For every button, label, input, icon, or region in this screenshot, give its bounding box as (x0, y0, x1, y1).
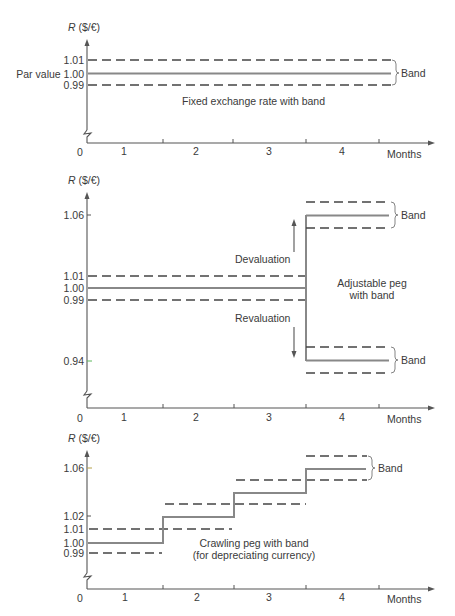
band-label-top: Band (401, 209, 426, 221)
y-label-low: 0.94 (64, 355, 85, 367)
x-tick-label: 2 (193, 411, 199, 423)
x-tick-label: 1 (122, 591, 128, 603)
y-label-upper: 1.01 (64, 523, 85, 535)
x-tick-label: 4 (339, 411, 345, 423)
chart-crawling-peg: R ($/€) 0 1 2 3 4 Months 1.06 1.02 1.01 … (64, 432, 435, 605)
chart-adjustable-peg: R ($/€) 0 1 2 3 4 Months 1.06 1.01 1.00 … (64, 174, 435, 425)
x-tick-label: 2 (193, 145, 199, 157)
exchange-rate-diagram: R ($/€) 0 1 2 3 4 Months 1.01 Par value … (0, 0, 455, 616)
y-axis-label: R ($/€) (68, 21, 100, 33)
axis-break-icon (84, 130, 91, 143)
band-brace-icon (391, 202, 398, 228)
band-brace-icon (391, 347, 398, 373)
x-tick-label: 3 (266, 591, 272, 603)
band-label: Band (401, 67, 426, 79)
y-label-high: 1.06 (64, 462, 85, 474)
x-axis-arrow-icon (428, 141, 435, 146)
x-tick-label: 0 (77, 146, 83, 158)
y-axis-arrow-icon (85, 39, 90, 46)
x-axis-label: Months (387, 593, 421, 605)
x-tick-label: 0 (77, 592, 83, 604)
chart-fixed: R ($/€) 0 1 2 3 4 Months 1.01 Par value … (16, 21, 435, 160)
devaluation-label: Devaluation (235, 253, 291, 265)
y-label-lower: 0.99 (64, 294, 85, 306)
y-label-upper: 1.01 (64, 270, 85, 282)
chart-caption-line1: Adjustable peg (337, 277, 407, 289)
y-label-step: 1.02 (64, 510, 85, 522)
x-axis-arrow-icon (428, 406, 435, 411)
y-label-lower: 0.99 (64, 547, 85, 559)
x-tick-label: 4 (339, 591, 345, 603)
x-tick-label: 1 (121, 145, 127, 157)
chart-caption-line1: Crawling peg with band (199, 537, 308, 549)
chart-caption-line2: (for depreciating currency) (193, 549, 316, 561)
arrow-down-icon (292, 351, 297, 358)
y-label-lower: 0.99 (64, 79, 85, 91)
y-label-high: 1.06 (64, 209, 85, 221)
band-label-bottom: Band (401, 354, 426, 366)
x-axis-label: Months (387, 148, 421, 160)
chart-caption-line2: with band (349, 289, 395, 301)
y-label-par: 1.00 (64, 282, 85, 294)
axis-break-icon (84, 391, 91, 408)
x-tick-label: 3 (266, 411, 272, 423)
x-tick-label: 4 (339, 145, 345, 157)
y-axis-label: R ($/€) (68, 174, 100, 186)
y-axis-arrow-icon (85, 450, 90, 457)
y-axis-label: R ($/€) (68, 432, 100, 444)
y-axis-arrow-icon (85, 192, 90, 199)
revaluation-label: Revaluation (235, 312, 291, 324)
x-tick-label: 1 (121, 411, 127, 423)
x-tick-label: 0 (77, 412, 83, 424)
band-brace-icon (368, 456, 375, 480)
x-axis-arrow-icon (428, 587, 435, 592)
arrow-up-icon (292, 219, 297, 226)
x-tick-label: 2 (194, 591, 200, 603)
chart-caption: Fixed exchange rate with band (182, 95, 325, 107)
band-label: Band (378, 462, 403, 474)
axis-break-icon (84, 573, 91, 589)
y-label-upper: 1.01 (64, 54, 85, 66)
x-tick-label: 3 (266, 145, 272, 157)
band-brace-icon (392, 60, 399, 85)
x-axis-label: Months (387, 413, 421, 425)
